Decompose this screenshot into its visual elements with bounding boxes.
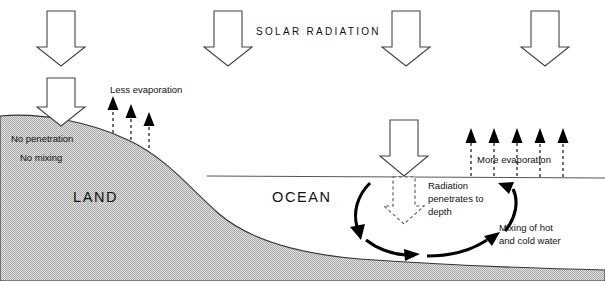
ocean-evaporation-arrow-2 bbox=[489, 128, 500, 176]
ocean-evaporation-arrows-group bbox=[466, 128, 569, 177]
land-evaporation-arrow-1 bbox=[108, 96, 119, 133]
ocean-evaporation-arrow-5 bbox=[558, 128, 569, 177]
solar-radiation-land-ocean-diagram: SOLAR RADIATION Less evaporation No pene… bbox=[0, 0, 605, 281]
solar-radiation-arrows-group bbox=[37, 11, 569, 66]
circulation-bottom-left-arrowhead bbox=[404, 249, 420, 261]
radiation-label-line-3: depth bbox=[428, 206, 452, 217]
land-note-no-mixing: No mixing bbox=[20, 152, 62, 163]
radiation-label-line-2: penetrates to bbox=[428, 193, 483, 204]
ocean-evaporation-arrow-1 bbox=[466, 128, 477, 176]
mixing-label-line-1: Mixing of hot bbox=[499, 222, 553, 233]
mixing-label-line-2: and cold water bbox=[499, 235, 561, 246]
radiation-penetration-arrow bbox=[384, 177, 424, 224]
solar-arrow-1 bbox=[37, 11, 85, 66]
solar-arrow-2 bbox=[204, 11, 252, 66]
ocean-evaporation-arrow-4 bbox=[535, 128, 546, 177]
circulation-bottom-left-curve bbox=[366, 240, 406, 255]
solar-arrow-ocean-surface bbox=[380, 120, 428, 176]
circulation-bottom-right-arrowhead bbox=[484, 232, 500, 246]
circulation-descending-arrowhead bbox=[350, 224, 365, 240]
circulation-ascending-arrowhead bbox=[498, 182, 514, 194]
land-evaporation-arrow-2 bbox=[126, 104, 137, 140]
land-evaporation-arrow-3 bbox=[144, 112, 155, 148]
land-note-no-penetration: No penetration bbox=[11, 133, 73, 144]
circulation-descending-curve bbox=[356, 183, 370, 227]
solar-radiation-title: SOLAR RADIATION bbox=[256, 26, 381, 37]
ocean-evaporation-arrow-3 bbox=[512, 128, 523, 176]
circulation-bottom-right-curve bbox=[427, 240, 487, 256]
solar-arrow-4 bbox=[521, 11, 569, 66]
solar-arrow-3 bbox=[382, 11, 430, 66]
less-evaporation-label: Less evaporation bbox=[110, 84, 182, 95]
ocean-region-label: OCEAN bbox=[272, 189, 332, 205]
more-evaporation-label: More evaporation bbox=[477, 154, 551, 165]
diagram-canvas: SOLAR RADIATION Less evaporation No pene… bbox=[0, 0, 605, 281]
land-region-label: LAND bbox=[73, 189, 118, 205]
radiation-label-line-1: Radiation bbox=[428, 180, 468, 191]
